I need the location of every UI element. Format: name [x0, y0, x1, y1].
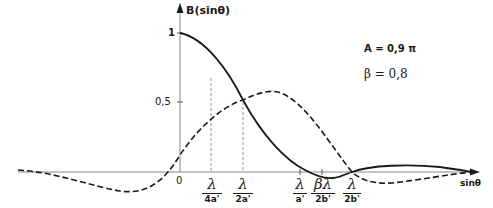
tick-denominator: 2b' [342, 194, 362, 204]
tick-denominator: a' [292, 194, 308, 204]
param-a-label: A = 0,9 π [364, 43, 416, 54]
y-axis-label: B(sinθ) [186, 4, 230, 17]
tick-denominator: 2a' [232, 194, 254, 204]
tick-numerator: λ [201, 177, 223, 193]
tick-numerator: λ [292, 177, 308, 193]
origin-label: 0 [176, 175, 182, 186]
param-beta-label: β = 0,8 [364, 67, 408, 81]
y-tick-label-half: 0,5 [155, 96, 171, 107]
tick-numerator: λ [232, 177, 254, 193]
y-axis-arrow-icon [177, 3, 184, 13]
x-tick-lambda-2a: λ 2a' [232, 177, 254, 204]
x-tick-lambda-4a: λ 4a' [201, 177, 223, 204]
solid-curve [180, 33, 472, 178]
x-tick-lambda-2b: λ 2b' [342, 177, 362, 204]
x-axis-label: sinθ [460, 178, 481, 188]
tick-numerator: βλ [310, 177, 336, 193]
tick-denominator: 4a' [201, 194, 223, 204]
x-tick-beta-lambda-2b: βλ 2b' [310, 177, 336, 204]
y-tick-label-1: 1 [168, 27, 175, 38]
x-tick-lambda-a: λ a' [292, 177, 308, 204]
tick-denominator: 2b' [310, 194, 336, 204]
tick-numerator: λ [342, 177, 362, 193]
